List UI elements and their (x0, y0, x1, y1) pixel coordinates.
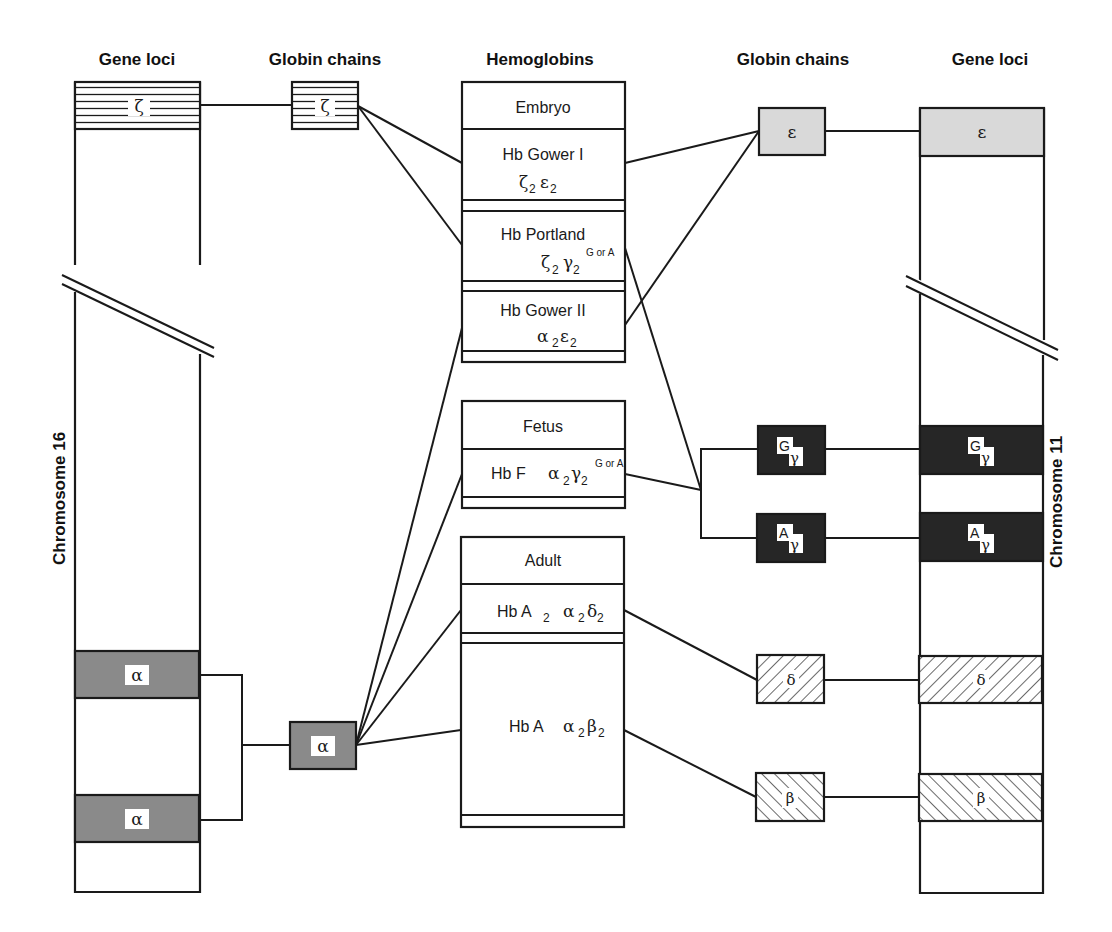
hemoglobins-column: Embryo Hb Gower I ζ 2 ε 2 Hb Portland ζ … (461, 82, 625, 827)
chromosome-16-label: Chromosome 16 (50, 432, 69, 565)
hb-a2-name: Hb A (497, 603, 532, 620)
formula-superscript: G or A (586, 247, 615, 258)
stage-adult-title: Adult (525, 552, 562, 569)
formula-chain: ε (560, 326, 569, 346)
stage-embryo-title: Embryo (515, 99, 570, 116)
header-left-globin-chains: Globin chains (269, 50, 381, 69)
formula-subscript: 2 (552, 336, 559, 350)
hb-gower-ii-name: Hb Gower II (500, 302, 585, 319)
epsilon-gene-label: ε (978, 122, 987, 142)
beta-chain-label: β (786, 789, 795, 807)
formula-chain: α (563, 716, 575, 736)
formula-superscript: G or A (595, 458, 624, 469)
formula-chain: γ (571, 463, 581, 483)
formula-subscript: 2 (570, 336, 577, 350)
beta-gene-label: β (977, 789, 986, 807)
formula-chain: ζ (519, 172, 528, 192)
formula-subscript: 2 (598, 726, 605, 740)
formula-chain: γ (563, 252, 573, 272)
a-gamma-chain-label: γ (790, 536, 799, 554)
g-gamma-superscript: G (779, 438, 790, 454)
chromosome-16-column: ζ α α Chromosome 16 (50, 82, 214, 892)
formula-chain: α (537, 326, 549, 346)
globin-gene-diagram: Gene loci Globin chains Hemoglobins Glob… (0, 0, 1112, 932)
chromosome-11-column: ε G γ A γ δ β Chromosome 11 (906, 108, 1066, 893)
hb-gower-i-name: Hb Gower I (503, 146, 584, 163)
formula-chain: δ (587, 601, 597, 621)
formula-subscript: 2 (578, 726, 585, 740)
delta-gene-label: δ (976, 671, 985, 689)
g-gamma-chain-label: γ (790, 449, 799, 467)
stage-fetus-title: Fetus (523, 418, 563, 435)
formula-chain: α (548, 463, 560, 483)
zeta-gene-label: ζ (134, 96, 143, 116)
alpha2-gene-label: α (131, 809, 143, 829)
adult-block (461, 537, 624, 827)
header-right-gene-loci: Gene loci (952, 50, 1029, 69)
header-right-globin-chains: Globin chains (737, 50, 849, 69)
formula-subscript: 2 (578, 611, 585, 625)
g-gamma-gene-label: γ (981, 449, 990, 467)
a-gamma-gene-superscript: A (970, 525, 980, 541)
hb-portland-name: Hb Portland (501, 226, 586, 243)
formula-subscript: 2 (550, 182, 557, 196)
chromosome-11-label: Chromosome 11 (1047, 436, 1066, 568)
hb-f-name: Hb F (491, 465, 526, 482)
formula-chain: ζ (541, 252, 550, 272)
a-gamma-gene-label: γ (981, 536, 990, 554)
header-left-gene-loci: Gene loci (99, 50, 176, 69)
epsilon-chain-label: ε (788, 122, 797, 142)
formula-subscript: 2 (581, 474, 588, 488)
formula-chain: β (587, 716, 597, 736)
g-gamma-gene-superscript: G (970, 438, 981, 454)
header-hemoglobins: Hemoglobins (486, 50, 594, 69)
formula-subscript: 2 (573, 263, 580, 277)
a-gamma-superscript: A (779, 525, 789, 541)
delta-chain-label: δ (786, 671, 795, 689)
formula-chain: α (563, 601, 575, 621)
alpha1-gene-label: α (131, 665, 143, 685)
formula-subscript: 2 (552, 263, 559, 277)
formula-subscript: 2 (597, 611, 604, 625)
left-globin-chains: ζ α (290, 82, 358, 769)
zeta-chain-label: ζ (320, 96, 329, 116)
formula-chain: ε (540, 172, 549, 192)
formula-subscript: 2 (563, 474, 570, 488)
alpha-chain-label: α (317, 736, 329, 756)
hb-a2-name-subscript: 2 (543, 611, 550, 625)
formula-subscript: 2 (529, 182, 536, 196)
embryo-block (462, 82, 625, 362)
right-globin-chains: ε G γ A γ δ β (756, 108, 825, 821)
hb-a-name: Hb A (509, 718, 544, 735)
